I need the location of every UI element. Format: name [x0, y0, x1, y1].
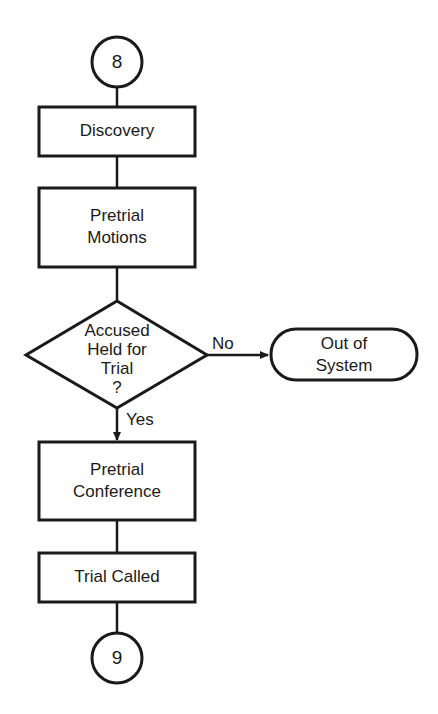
- label-out-of-system: Out of System: [271, 333, 417, 377]
- label-trial-called: Trial Called: [39, 566, 195, 588]
- label-discovery: Discovery: [39, 120, 195, 142]
- edge-label-no: No: [212, 334, 234, 354]
- label-line: Out of: [271, 333, 417, 355]
- label-line: System: [271, 355, 417, 377]
- label-line: Pretrial: [39, 205, 195, 227]
- label-line: ?: [57, 378, 177, 397]
- label-line: Trial Called: [39, 566, 195, 588]
- label-line: Pretrial: [39, 459, 195, 481]
- label-pretrial-motions: Pretrial Motions: [39, 205, 195, 249]
- label-decision: Accused Held for Trial ?: [57, 321, 177, 397]
- label-line: Trial: [57, 359, 177, 378]
- label-pretrial-conference: Pretrial Conference: [39, 459, 195, 503]
- label-line: Held for: [57, 340, 177, 359]
- edge-label-yes: Yes: [126, 410, 154, 430]
- connector-label-9: 9: [92, 647, 142, 669]
- label-line: Discovery: [39, 120, 195, 142]
- label-line: Motions: [39, 227, 195, 249]
- label-line: Conference: [39, 481, 195, 503]
- label-line: Accused: [57, 321, 177, 340]
- connector-label-8: 8: [92, 51, 142, 73]
